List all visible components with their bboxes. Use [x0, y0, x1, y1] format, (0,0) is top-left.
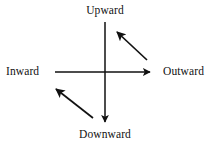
label-downward: Downward — [0, 128, 210, 141]
upper-right-diagonal-arrow — [117, 32, 147, 60]
label-upward: Upward — [0, 4, 210, 17]
direction-diagram: Upward Inward Outward Downward — [0, 0, 210, 149]
label-outward: Outward — [163, 65, 204, 78]
label-inward: Inward — [6, 65, 39, 78]
lower-left-diagonal-arrow — [56, 89, 93, 118]
